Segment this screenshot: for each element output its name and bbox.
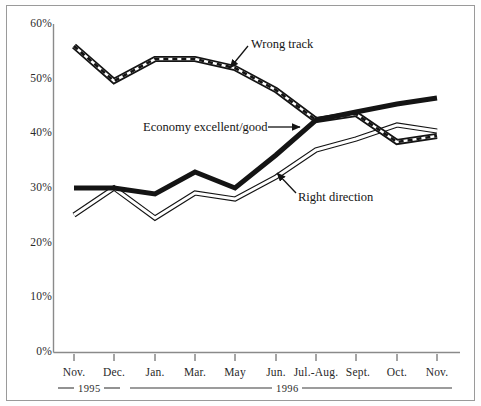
x-axis-ticks	[74, 354, 437, 361]
plot-area	[0, 0, 481, 406]
series-economy-excellent-good	[74, 98, 437, 194]
chart-figure: 60% 50% 40% 30% 20% 10% 0% Nov. Dec. Jan…	[0, 0, 481, 406]
leader-wrong-track	[230, 46, 248, 68]
leader-right-direction	[277, 173, 296, 193]
